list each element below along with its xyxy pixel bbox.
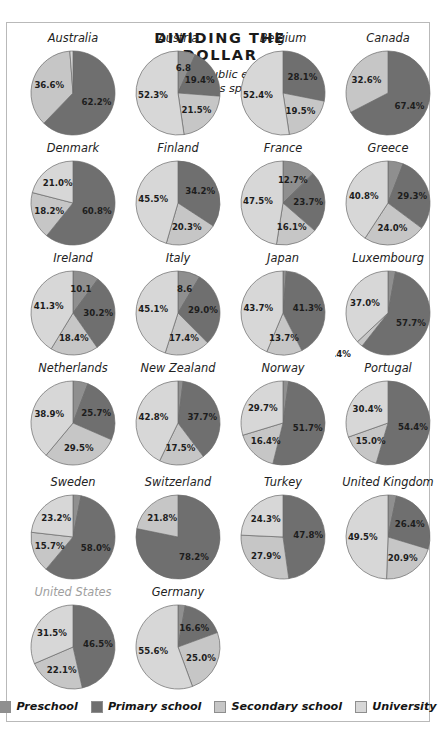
pie-slice-value-label: 38.9%: [34, 409, 64, 419]
pie-slice-value-label: 42.8%: [138, 412, 168, 422]
pie-chart-country-label: Luxembourg: [335, 250, 441, 266]
pie-chart-country-label: Italy: [125, 250, 231, 266]
pie-slice-value-label: 15.0%: [356, 436, 386, 446]
pie-chart: 2.0%37.7%17.5%42.8%: [125, 376, 231, 472]
pie-chart: 3.1%58.0%15.7%23.2%: [20, 490, 126, 586]
pie-chart-cell: France12.7%23.7%16.1%47.5%: [230, 140, 336, 252]
legend-item: Primary school: [91, 700, 202, 713]
pie-chart: 0.1%54.4%15.0%30.4%: [335, 376, 441, 472]
pie-chart: 5.825.7%29.5%38.9%: [20, 376, 126, 472]
pie-slice-value-label: 40.8%: [349, 191, 379, 201]
pie-slice-value-label: 45.5%: [138, 194, 168, 204]
pie-slice-value-label: 15.7%: [35, 541, 65, 551]
pie-slice-value-label: 28.1%: [288, 72, 318, 82]
pie-slice-value-label: 78.2%: [179, 552, 209, 562]
pie-chart-cell: Turkey47.8%27.9%24.3%: [230, 474, 336, 586]
pie-chart-country-label: Turkey: [230, 474, 336, 490]
pie-chart: 2.9%57.7%2.4%37.0%: [335, 266, 441, 362]
pie-chart-cell: Japan1.3%41.3%13.7%43.7%: [230, 250, 336, 362]
pie-chart: 2.2%51.7%16.4%29.7%: [230, 376, 336, 472]
pie-chart: 46.5%22.1%31.5%: [20, 600, 126, 696]
pie-slice-value-label: 20.3%: [172, 222, 202, 232]
pie-slice-value-label: 19.5%: [285, 106, 315, 116]
pie-chart-cell: Netherlands5.825.7%29.5%38.9%: [20, 360, 126, 472]
pie-chart: 1.3%41.3%13.7%43.7%: [230, 266, 336, 362]
pie-chart-country-label: Finland: [125, 140, 231, 156]
pie-slice-value-label: 21.5%: [181, 105, 211, 115]
pie-slice-value-label: 43.7%: [243, 303, 273, 313]
pie-chart-cell: United States46.5%22.1%31.5%: [20, 584, 126, 696]
pie-slice-value-label: 49.5%: [348, 532, 378, 542]
pie-slice-value-label: 55.6%: [138, 646, 168, 656]
pie-chart-cell: Denmark60.8%18.2%21.0%: [20, 140, 126, 252]
pie-chart-country-label: Greece: [335, 140, 441, 156]
pie-slice-value-label: 37.7%: [187, 412, 217, 422]
pie-chart-country-label: United States: [20, 584, 126, 600]
pie-chart: 10.130.2%18.4%41.3%: [20, 266, 126, 362]
pie-chart-cell: Australia62.2%36.6%1.2%: [20, 30, 126, 142]
pie-chart-country-label: Sweden: [20, 474, 126, 490]
pie-slice-value-label: 23.2%: [41, 513, 71, 523]
pie-slice-value-label: 10.1: [70, 284, 91, 294]
legend-item: University: [355, 700, 436, 713]
pie-chart: 2.8%16.6%25.0%55.6%: [125, 600, 231, 696]
legend-label: Preschool: [16, 700, 77, 713]
legend-item: Preschool: [0, 700, 78, 713]
pie-chart: 12.7%23.7%16.1%47.5%: [230, 156, 336, 252]
pie-chart-cell: Sweden3.1%58.0%15.7%23.2%: [20, 474, 126, 586]
legend-swatch-icon: [214, 701, 226, 713]
pie-slice-value-label: 8.6: [177, 284, 192, 294]
pie-chart: 78.2%21.8%: [125, 490, 231, 586]
pie-slice-value-label: 52.3%: [138, 90, 168, 100]
legend-swatch-icon: [355, 701, 367, 713]
pie-slice-value-label: 2.4%: [335, 349, 351, 359]
pie-slice-value-label: 25.7%: [81, 408, 111, 418]
pie-chart: 60.8%18.2%21.0%: [20, 156, 126, 252]
pie-chart-country-label: Germany: [125, 584, 231, 600]
pie-slice-value-label: 26.4%: [395, 519, 425, 529]
pie-slice-value-label: 46.5%: [83, 639, 113, 649]
pie-slice-value-label: 47.5%: [243, 196, 273, 206]
pie-chart: 28.1%19.5%52.4%: [230, 46, 336, 142]
legend-swatch-icon: [0, 701, 11, 713]
pie-slice-value-label: 60.8%: [82, 206, 112, 216]
pie-chart-country-label: Austria: [125, 30, 231, 46]
pie-chart-country-label: Denmark: [20, 140, 126, 156]
pie-chart-cell: Belgium28.1%19.5%52.4%: [230, 30, 336, 142]
pie-chart-country-label: Japan: [230, 250, 336, 266]
pie-slice-value-label: 29.3%: [397, 191, 427, 201]
pie-chart-country-label: Switzerland: [125, 474, 231, 490]
pie-slice-value-label: 37.0%: [350, 298, 380, 308]
pie-chart-country-label: Belgium: [230, 30, 336, 46]
pie-slice-value-label: 16.6%: [179, 623, 209, 633]
pie-slice-value-label: 52.4%: [243, 90, 273, 100]
pie-chart-cell: Ireland10.130.2%18.4%41.3%: [20, 250, 126, 362]
pie-chart: 47.8%27.9%24.3%: [230, 490, 336, 586]
pie-slice-value-label: 62.2%: [81, 97, 111, 107]
pie-slice-value-label: 41.3%: [293, 303, 323, 313]
pie-slice-value-label: 17.5%: [166, 443, 196, 453]
pie-chart-country-label: Netherlands: [20, 360, 126, 376]
pie-slice-value-label: 25.0%: [186, 653, 216, 663]
pie-slice-value-label: 17.4%: [169, 333, 199, 343]
pie-chart: 67.4%32.6%: [335, 46, 441, 142]
pie-slice-value-label: 16.1%: [277, 222, 307, 232]
pie-slice-value-label: 45.1%: [138, 304, 168, 314]
pie-chart-cell: Switzerland78.2%21.8%: [125, 474, 231, 586]
legend-label: Primary school: [108, 700, 202, 713]
pie-slice-value-label: 51.7%: [293, 423, 323, 433]
pie-slice-value-label: 27.9%: [251, 551, 281, 561]
pie-slice-value-label: 29.7%: [248, 403, 278, 413]
pie-slice-value-label: 31.5%: [37, 628, 67, 638]
pie-chart-country-label: Portugal: [335, 360, 441, 376]
pie-chart: 8.629.0%17.4%45.1%: [125, 266, 231, 362]
pie-chart-cell: Austria6.819.4%21.5%52.3%: [125, 30, 231, 142]
pie-chart-cell: Norway2.2%51.7%16.4%29.7%: [230, 360, 336, 472]
pie-slice-value-label: 22.1%: [47, 665, 77, 675]
pie-slice-value-label: 21.8%: [147, 513, 177, 523]
pie-chart: 3.3%26.4%20.9%49.5%: [335, 490, 441, 586]
pie-chart-cell: Finland34.2%20.3%45.5%: [125, 140, 231, 252]
legend: PreschoolPrimary schoolSecondary schoolU…: [6, 700, 430, 713]
pie-chart: 6.819.4%21.5%52.3%: [125, 46, 231, 142]
pie-chart-country-label: Ireland: [20, 250, 126, 266]
